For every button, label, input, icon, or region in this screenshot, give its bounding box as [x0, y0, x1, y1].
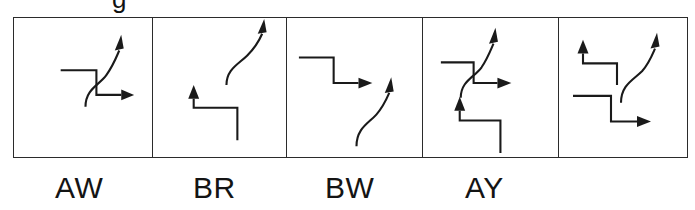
- arrow-up-step-path-p5: [583, 53, 617, 85]
- arrow-up-step-path-br: [194, 99, 238, 140]
- arrow-up-head-curve-p5: [651, 33, 660, 49]
- panel-label-ay: AY: [465, 168, 504, 208]
- panel-bw: [287, 18, 423, 157]
- step-path-down-right-p5: [573, 96, 637, 122]
- s-curve-ay: [461, 44, 494, 98]
- arrow-right-head-p5: [637, 116, 651, 127]
- panel-ay-drawing: [423, 18, 558, 157]
- panel-br-drawing: [153, 18, 286, 157]
- s-curve-bw: [356, 93, 389, 146]
- panel-bw-drawing: [287, 18, 422, 157]
- panel-aw-drawing: [14, 18, 152, 157]
- panel-label-row: AW BR BW AY: [13, 168, 688, 210]
- panel-strip: [13, 17, 688, 158]
- panel-aw: [14, 18, 153, 157]
- arrow-up-head-curve-br: [258, 19, 267, 34]
- arrow-up-head-bw: [385, 77, 394, 93]
- clipped-caption-glyph: g: [112, 0, 126, 15]
- arrow-right-head-ay: [497, 78, 511, 89]
- s-curve-aw: [85, 51, 119, 107]
- s-curve-br: [226, 34, 262, 85]
- panel-br: [153, 18, 287, 157]
- panel-label-aw: AW: [55, 168, 103, 208]
- figure-root: g: [0, 0, 695, 210]
- panel-label-bw: BW: [325, 168, 374, 208]
- step-path-down-right-bw: [299, 57, 359, 83]
- arrow-up-step-path-ay: [460, 111, 501, 153]
- panel-ay: [423, 18, 559, 157]
- arrow-up-head-aw: [115, 35, 124, 51]
- arrow-up-head-step-ay: [454, 97, 465, 111]
- arrow-up-head-step-br: [188, 85, 199, 99]
- arrow-right-head-bw: [358, 78, 372, 89]
- panel-unlabeled-drawing: [559, 18, 686, 157]
- arrow-up-head-step-p5: [578, 40, 589, 54]
- panel-unlabeled: [559, 18, 686, 157]
- arrow-up-head-curve-ay: [489, 28, 498, 44]
- panel-label-br: BR: [193, 168, 236, 208]
- arrow-right-head-aw: [121, 89, 134, 100]
- s-curve-p5: [621, 49, 655, 103]
